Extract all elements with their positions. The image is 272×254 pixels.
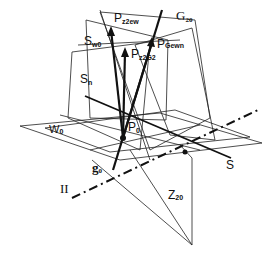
point-intersection xyxy=(183,150,188,155)
plane-sw0 xyxy=(86,20,168,120)
label-pgewn: PGewn xyxy=(157,37,184,51)
plane-w0-inner xyxy=(45,110,250,152)
label-sn: Sn xyxy=(80,72,92,86)
label-pz2g2: Pz2G2 xyxy=(131,47,156,61)
geometry-diagram: Pz2ew G20 Sw0 PGewn Pz2G2 Sn P0 W0 g0 S … xyxy=(0,0,272,254)
label-pz2ew: Pz2ew xyxy=(114,11,139,25)
label-g20: G20 xyxy=(176,8,193,24)
label-w0: W0 xyxy=(49,123,63,135)
label-ii: II xyxy=(60,181,69,196)
point-p0 xyxy=(120,135,126,141)
label-g0: g0 xyxy=(92,160,103,175)
label-z20: Z20 xyxy=(168,188,183,202)
arrow-pz2ew-icon xyxy=(107,26,115,36)
arrow-pz2g2-icon xyxy=(121,47,129,57)
vector-pz2g2 xyxy=(123,52,125,138)
label-sw0: Sw0 xyxy=(84,34,101,48)
z20-edge xyxy=(92,160,192,245)
label-p0: P0 xyxy=(128,120,140,134)
label-s: S xyxy=(226,158,234,172)
